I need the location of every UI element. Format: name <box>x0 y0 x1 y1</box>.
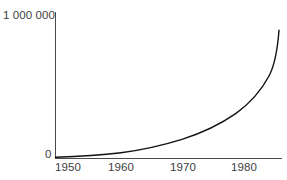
cropped-caption-strip <box>0 174 287 180</box>
chart-figure: 1 000 000 0 1950 1960 1970 1980 <box>0 0 287 180</box>
growth-curve <box>56 30 280 157</box>
screenshot-root: 1 000 000 0 1950 1960 1970 1980 <box>0 0 287 180</box>
x-tick-label-1980: 1980 <box>231 161 257 173</box>
y-axis-min-label: 0 <box>45 148 52 160</box>
x-tick-label-1970: 1970 <box>170 161 196 173</box>
chart-plot-area <box>0 0 287 180</box>
x-tick-label-1950: 1950 <box>55 161 81 173</box>
x-tick-label-1960: 1960 <box>108 161 134 173</box>
y-axis-max-label: 1 000 000 <box>3 9 55 21</box>
